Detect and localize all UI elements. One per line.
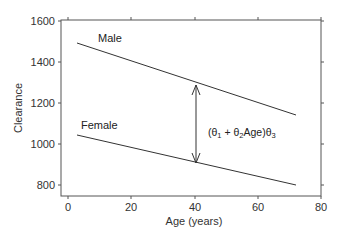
chart-svg: 0 20 40 60 80 1600 1400 1200 1000 800 Ag… (0, 0, 340, 238)
x-axis-label: Age (years) (166, 215, 223, 227)
y-tick-label: 1400 (31, 56, 55, 68)
y-tick-labels: 1600 1400 1200 1000 800 (31, 15, 55, 191)
y-axis-label: Clearance (12, 83, 24, 133)
x-tick-label: 60 (252, 201, 264, 213)
double-arrow-annotation (192, 85, 200, 163)
x-ticks (68, 17, 321, 199)
y-tick-label: 800 (37, 179, 55, 191)
y-tick-label: 1600 (31, 15, 55, 27)
x-tick-labels: 0 20 40 60 80 (65, 201, 327, 213)
y-tick-label: 1000 (31, 138, 55, 150)
x-tick-label: 0 (65, 201, 71, 213)
y-ticks (58, 21, 324, 185)
clearance-vs-age-chart: 0 20 40 60 80 1600 1400 1200 1000 800 Ag… (0, 0, 340, 238)
male-line (77, 43, 296, 115)
female-line (77, 135, 296, 185)
formula-annotation: (θ1 + θ2Age)θ3 (208, 126, 276, 140)
female-label: Female (81, 119, 118, 131)
x-tick-label: 20 (125, 201, 137, 213)
male-label: Male (98, 32, 122, 44)
x-tick-label: 80 (315, 201, 327, 213)
x-tick-label: 40 (189, 201, 201, 213)
y-tick-label: 1200 (31, 97, 55, 109)
plot-frame (61, 20, 321, 196)
